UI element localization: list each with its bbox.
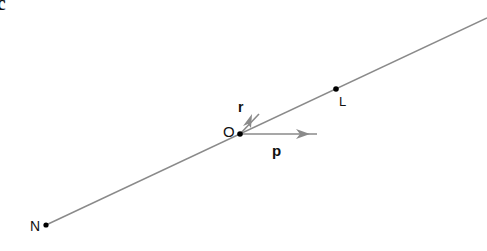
label-r: r [238, 100, 243, 114]
point-L [333, 86, 339, 92]
label-L: L [339, 95, 346, 108]
label-p: p [272, 143, 281, 158]
diagram-canvas [0, 0, 487, 251]
label-O: O [223, 124, 235, 139]
line-through-O-L-N [46, 18, 487, 225]
point-O [237, 131, 243, 137]
label-N: N [30, 219, 40, 233]
point-N [43, 222, 48, 227]
